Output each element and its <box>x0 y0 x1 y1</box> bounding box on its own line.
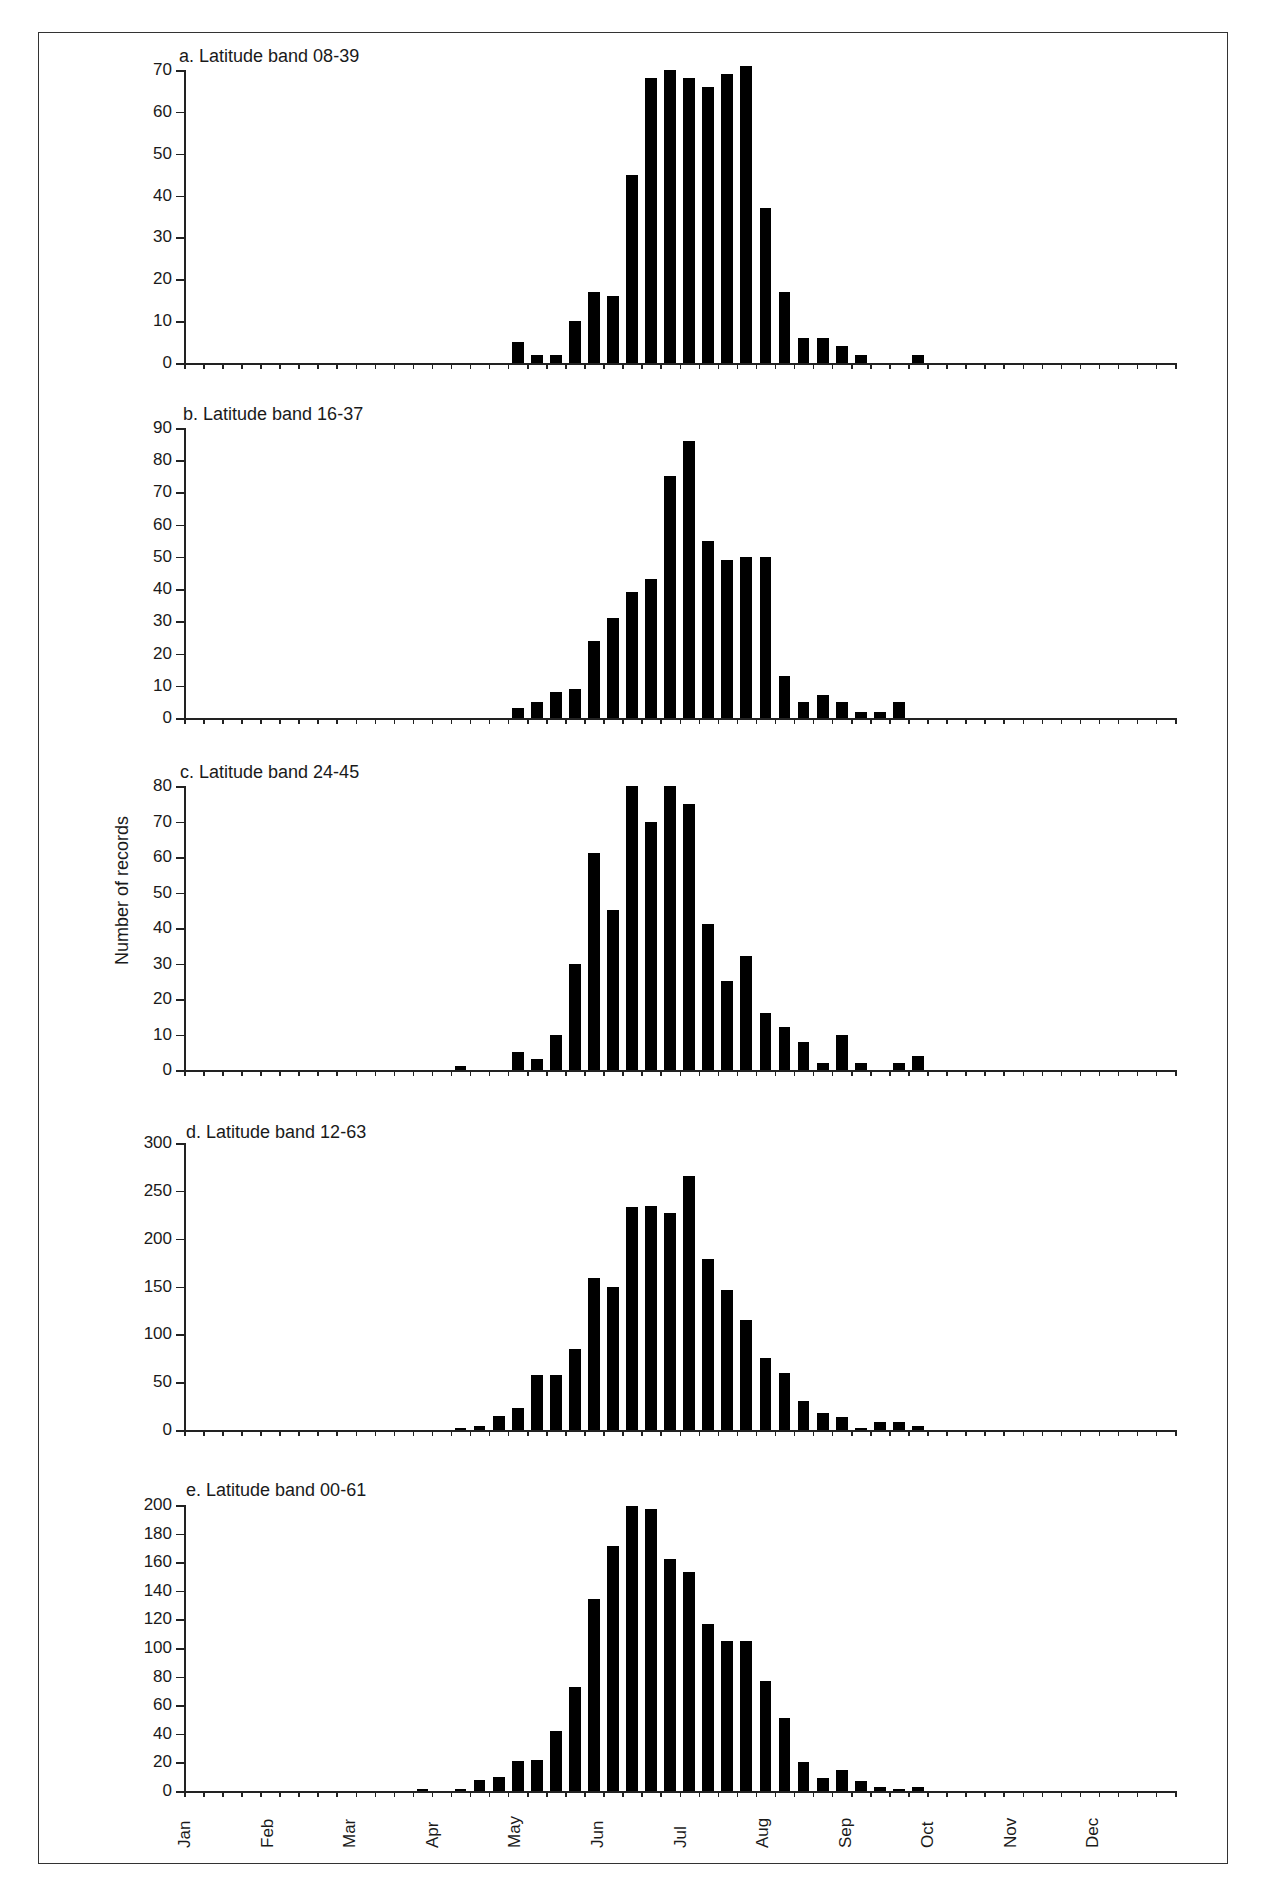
bar <box>779 292 791 363</box>
x-tick <box>794 1430 796 1436</box>
x-tick <box>375 363 377 369</box>
bar <box>474 1426 486 1430</box>
bar <box>912 355 924 363</box>
x-tick <box>1175 1070 1177 1076</box>
y-tick <box>176 999 184 1001</box>
y-tick-label: 10 <box>122 312 172 330</box>
y-axis-line <box>184 786 186 1070</box>
x-tick <box>336 1070 338 1076</box>
x-tick <box>680 1791 682 1797</box>
x-tick <box>908 1791 910 1797</box>
y-tick <box>176 1287 184 1289</box>
x-tick <box>680 1430 682 1436</box>
y-tick-label: 10 <box>122 1026 172 1044</box>
y-tick-label: 20 <box>122 1753 172 1771</box>
bar <box>702 1259 714 1430</box>
x-tick <box>1156 363 1158 369</box>
x-tick <box>699 363 701 369</box>
x-tick <box>279 1430 281 1436</box>
x-tick <box>984 718 986 724</box>
bar <box>455 1428 467 1430</box>
bar <box>588 641 600 718</box>
x-tick <box>737 718 739 724</box>
y-tick-label: 20 <box>122 990 172 1008</box>
bar <box>798 1042 810 1070</box>
y-tick-label: 0 <box>122 1061 172 1079</box>
x-tick <box>737 1070 739 1076</box>
x-tick <box>584 363 586 369</box>
x-tick <box>813 1791 815 1797</box>
x-axis-line <box>176 718 1175 720</box>
x-tick <box>279 363 281 369</box>
x-tick <box>527 1430 529 1436</box>
bar <box>740 1641 752 1791</box>
y-tick <box>176 1430 184 1432</box>
y-tick-label: 50 <box>122 145 172 163</box>
bar <box>531 355 543 363</box>
y-tick <box>176 557 184 559</box>
bar <box>417 1789 429 1791</box>
x-tick <box>775 363 777 369</box>
month-label: Feb <box>258 1819 278 1848</box>
bar <box>531 1760 543 1791</box>
x-tick <box>222 1070 224 1076</box>
bar <box>626 175 638 363</box>
x-tick <box>432 363 434 369</box>
x-tick <box>699 1791 701 1797</box>
x-tick <box>565 1430 567 1436</box>
x-tick <box>413 1791 415 1797</box>
x-tick <box>336 363 338 369</box>
y-axis-label: Number of records <box>112 816 133 965</box>
panel-title: c. Latitude band 24-45 <box>180 762 359 783</box>
x-tick <box>489 1791 491 1797</box>
x-tick <box>908 1430 910 1436</box>
month-label: Dec <box>1083 1818 1103 1848</box>
bar <box>607 910 619 1070</box>
bar <box>855 1781 867 1791</box>
y-tick <box>176 964 184 966</box>
x-tick <box>298 1070 300 1076</box>
x-tick <box>832 1430 834 1436</box>
bar <box>531 1059 543 1070</box>
y-tick <box>176 321 184 323</box>
bar <box>683 1572 695 1791</box>
y-tick <box>176 1619 184 1621</box>
x-tick <box>356 1070 358 1076</box>
x-tick <box>470 1791 472 1797</box>
x-tick <box>584 1791 586 1797</box>
y-tick-label: 0 <box>122 1421 172 1439</box>
x-tick <box>1080 363 1082 369</box>
y-tick-label: 50 <box>122 548 172 566</box>
bar <box>779 1718 791 1791</box>
bar <box>740 956 752 1070</box>
x-tick <box>946 363 948 369</box>
y-tick-label: 30 <box>122 612 172 630</box>
x-tick <box>1099 1430 1101 1436</box>
x-tick <box>222 1430 224 1436</box>
bar <box>569 321 581 363</box>
x-tick <box>317 718 319 724</box>
x-tick <box>489 1430 491 1436</box>
bar <box>588 1278 600 1430</box>
x-tick <box>451 363 453 369</box>
x-tick <box>1003 1070 1005 1076</box>
x-tick <box>375 718 377 724</box>
x-tick <box>1023 363 1025 369</box>
x-tick <box>680 1070 682 1076</box>
bar <box>702 1624 714 1791</box>
y-tick <box>176 1791 184 1793</box>
y-tick <box>176 1191 184 1193</box>
y-tick-label: 60 <box>122 1696 172 1714</box>
y-tick-label: 40 <box>122 187 172 205</box>
y-axis-line <box>184 70 186 363</box>
bar <box>683 804 695 1070</box>
x-tick <box>622 1430 624 1436</box>
x-tick <box>584 1070 586 1076</box>
x-tick <box>451 1070 453 1076</box>
bar <box>550 355 562 363</box>
y-tick-label: 30 <box>122 228 172 246</box>
y-tick <box>176 112 184 114</box>
bar <box>721 1290 733 1430</box>
y-tick-label: 50 <box>122 1373 172 1391</box>
y-tick-label: 60 <box>122 103 172 121</box>
